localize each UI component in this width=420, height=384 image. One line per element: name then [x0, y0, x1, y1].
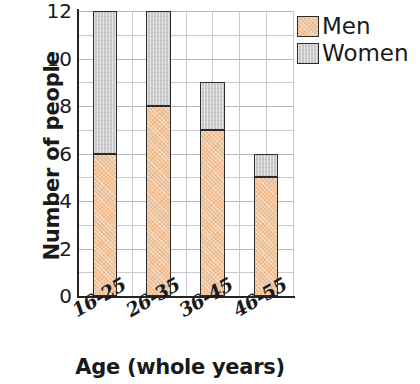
gridline-vertical	[293, 11, 294, 296]
x-axis-title: Age (whole years)	[50, 355, 310, 379]
y-tick-label: 2	[42, 239, 72, 259]
y-tick-label: 12	[42, 1, 72, 21]
bar-group[interactable]	[200, 11, 225, 296]
y-tick-label: 0	[42, 286, 72, 306]
bar-segment-women[interactable]	[146, 11, 171, 106]
y-axis-tick-labels: 024681012	[38, 11, 72, 296]
bar-segment-men[interactable]	[146, 106, 171, 296]
plot-area	[78, 11, 293, 296]
bar-segment-women[interactable]	[254, 154, 279, 178]
bar-segment-men[interactable]	[200, 130, 225, 296]
legend-item[interactable]: Men	[297, 13, 419, 40]
bar-group[interactable]	[254, 11, 279, 296]
y-axis-line	[77, 9, 79, 298]
gridline-vertical	[132, 11, 133, 296]
legend-label: Women	[319, 42, 409, 65]
y-tick-label: 10	[42, 49, 72, 69]
y-tick-label: 4	[42, 191, 72, 211]
bar-segment-women[interactable]	[93, 11, 118, 154]
legend-swatch	[297, 43, 319, 64]
bar-group[interactable]	[146, 11, 171, 296]
gridline-vertical	[186, 11, 187, 296]
legend-item[interactable]: Women	[297, 40, 419, 67]
legend-swatch	[297, 16, 319, 37]
y-tick-label: 8	[42, 96, 72, 116]
legend-label: Men	[319, 15, 371, 38]
bar-group[interactable]	[93, 11, 118, 296]
y-tick-label: 6	[42, 144, 72, 164]
bar-chart: Number of people 024681012 16-2526-3536-…	[0, 0, 420, 384]
gridline-vertical	[239, 11, 240, 296]
bar-segment-women[interactable]	[200, 82, 225, 130]
chart-legend: MenWomen	[297, 13, 419, 67]
